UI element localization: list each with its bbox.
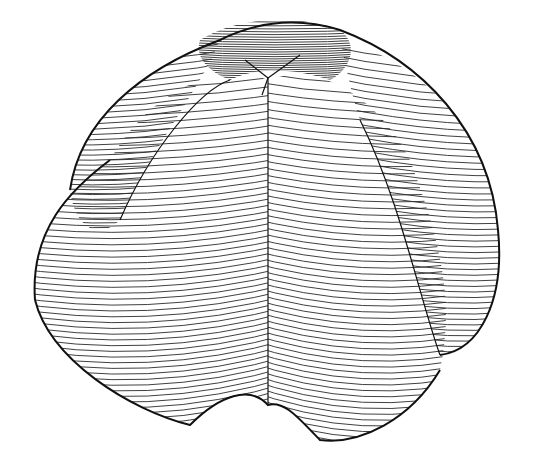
lobe-front-left (5, 64, 290, 451)
lobe-top (170, 20, 380, 91)
figure-canvas (0, 0, 538, 471)
contour-lobed-form-illustration (0, 0, 538, 471)
lobe-back-left (40, 30, 250, 255)
